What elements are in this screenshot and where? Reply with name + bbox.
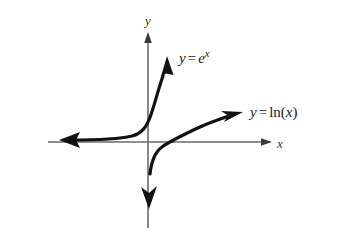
graph-figure: y=ex y=ln(x) y x <box>0 0 343 237</box>
logarithm-down-arrowhead <box>141 186 157 209</box>
logarithm-label-equals: = <box>257 104 269 120</box>
exponential-label-exponent: x <box>205 47 210 59</box>
y-axis-label: y <box>145 14 151 27</box>
logarithm-label-close: ) <box>292 104 297 120</box>
exponential-curve <box>70 76 163 140</box>
y-axis-arrowhead <box>144 32 152 43</box>
logarithm-curve-label: y=ln(x) <box>250 105 297 120</box>
logarithm-curve <box>150 116 229 174</box>
exponential-label-y: y <box>179 50 186 66</box>
exponential-curve-group <box>59 56 174 148</box>
exponential-up-arrowhead <box>161 56 174 78</box>
x-axis-label: x <box>277 137 283 150</box>
exponential-label-base: e <box>198 50 205 66</box>
logarithm-label-y: y <box>250 104 257 120</box>
axes-group <box>48 32 272 228</box>
logarithm-label-function: ln( <box>269 104 286 120</box>
logarithm-curve-group <box>141 111 243 209</box>
x-axis-arrowhead <box>261 138 272 146</box>
exponential-curve-label: y=ex <box>179 51 210 66</box>
exponential-label-equals: = <box>186 50 198 66</box>
